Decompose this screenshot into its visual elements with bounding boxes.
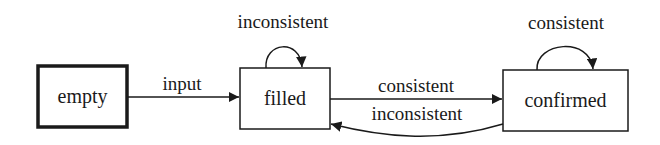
transition-filled-self-loop: inconsistent bbox=[238, 11, 329, 68]
state-confirmed-label: confirmed bbox=[524, 89, 606, 111]
transition-filled-to-confirmed: consistent bbox=[330, 75, 502, 99]
transition-confirmed-self-loop: consistent bbox=[528, 12, 605, 70]
transition-empty-to-filled: input bbox=[128, 73, 239, 97]
transition-label-filled-loop: inconsistent bbox=[238, 11, 329, 32]
arrow-confirmed-loop bbox=[537, 47, 593, 70]
arrow-filled-loop bbox=[266, 47, 302, 68]
state-diagram: empty filled confirmed input inconsisten… bbox=[0, 0, 660, 145]
state-confirmed[interactable]: confirmed bbox=[503, 70, 628, 131]
state-empty[interactable]: empty bbox=[38, 66, 127, 127]
state-filled[interactable]: filled bbox=[240, 68, 330, 129]
state-filled-label: filled bbox=[264, 87, 306, 109]
transition-confirmed-to-filled: inconsistent bbox=[331, 103, 503, 136]
transition-label-consistent: consistent bbox=[378, 75, 455, 96]
state-empty-label: empty bbox=[58, 85, 108, 108]
transition-label-input: input bbox=[162, 73, 202, 94]
transition-label-inconsistent-back: inconsistent bbox=[372, 103, 463, 124]
arrow-inconsistent-back bbox=[331, 124, 503, 136]
transition-label-confirmed-loop: consistent bbox=[528, 12, 605, 33]
